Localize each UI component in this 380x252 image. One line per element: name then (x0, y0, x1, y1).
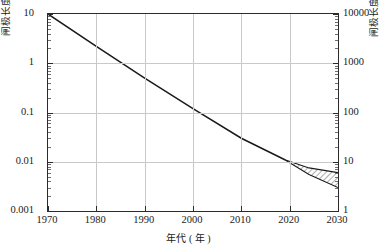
gridline-vertical (290, 14, 291, 211)
y-tick-minor-right (335, 188, 338, 189)
y-tick-minor-left (48, 68, 51, 69)
y-tick-minor-left (48, 22, 51, 23)
y-tick-minor-right (335, 78, 338, 79)
y-tick-minor-right (335, 29, 338, 30)
y-tick-right (333, 211, 338, 212)
y-tick-minor-right (335, 22, 338, 23)
x-tick (96, 206, 97, 211)
y-tick-minor-right (335, 169, 338, 170)
y-tick-minor-left (48, 66, 51, 67)
y-tick-minor-right (335, 138, 338, 139)
x-tick (193, 206, 194, 211)
y-axis-tick-label-right: 1000 (343, 57, 364, 68)
y-tick-minor-left (48, 78, 51, 79)
y-tick-minor-right (335, 83, 338, 84)
y-axis-tick-label-left: 1 (29, 57, 34, 68)
y-tick-minor-right (335, 173, 338, 174)
y-axis-tick-label-left: 0.1 (21, 107, 34, 118)
y-tick-minor-right (335, 74, 338, 75)
y-tick-minor-right (335, 115, 338, 116)
y-tick-minor-right (335, 98, 338, 99)
y-tick-minor-left (48, 29, 51, 30)
x-tick (241, 206, 242, 211)
y-tick-right (333, 162, 338, 163)
y-tick-minor-left (48, 115, 51, 116)
x-tick (145, 206, 146, 211)
gridline-vertical (96, 14, 97, 211)
y-axis-tick-label-right: 100 (343, 107, 359, 118)
y-tick-left (48, 162, 53, 163)
y-tick-minor-left (48, 188, 51, 189)
x-axis-tick-label: 2020 (266, 214, 312, 225)
y-tick-left (48, 63, 53, 64)
y-tick-minor-left (48, 169, 51, 170)
x-axis-tick-label: 1980 (72, 214, 118, 225)
y-tick-right (333, 63, 338, 64)
x-axis-tick-label: 2030 (314, 214, 360, 225)
y-tick-minor-left (48, 89, 51, 90)
y-tick-minor-right (335, 123, 338, 124)
y-tick-right (333, 113, 338, 114)
x-axis-title: 年代 ( 年 ) (0, 230, 377, 245)
gridline-vertical (145, 14, 146, 211)
y-tick-minor-left (48, 16, 51, 17)
y-tick-minor-left (48, 138, 51, 139)
y-tick-minor-left (48, 132, 51, 133)
y-tick-minor-left (48, 177, 51, 178)
y-tick-minor-right (335, 19, 338, 20)
x-axis-tick-label: 1990 (121, 214, 167, 225)
y-tick-right (333, 14, 338, 15)
y-tick-minor-left (48, 123, 51, 124)
gridline-vertical (241, 14, 242, 211)
y-tick-left (48, 211, 53, 212)
x-tick (338, 206, 339, 211)
y-tick-minor-right (335, 117, 338, 118)
data-line-0 (48, 14, 285, 160)
y-tick-minor-left (48, 196, 51, 197)
y-tick-minor-left (48, 127, 51, 128)
y-tick-left (48, 113, 53, 114)
y-tick-minor-right (335, 167, 338, 168)
y-tick-minor-left (48, 40, 51, 41)
y-tick-minor-right (335, 132, 338, 133)
y-tick-minor-right (335, 48, 338, 49)
y-tick-minor-left (48, 98, 51, 99)
y-tick-minor-left (48, 167, 51, 168)
y-tick-minor-right (335, 66, 338, 67)
y-axis-tick-label-right: 10 (343, 156, 354, 167)
forecast-shaded-region (285, 160, 338, 188)
y-tick-minor-left (48, 173, 51, 174)
x-axis-tick-label: 2000 (169, 214, 215, 225)
y-tick-minor-right (335, 34, 338, 35)
y-tick-minor-left (48, 120, 51, 121)
y-tick-minor-right (335, 127, 338, 128)
y-tick-minor-right (335, 164, 338, 165)
y-tick-minor-right (335, 68, 338, 69)
x-tick (290, 206, 291, 211)
y-axis-tick-label-right: 10000 (343, 8, 369, 19)
x-tick (48, 206, 49, 211)
y-tick-minor-right (335, 71, 338, 72)
y-tick-minor-right (335, 16, 338, 17)
y-tick-left (48, 14, 53, 15)
y-tick-minor-left (48, 147, 51, 148)
x-axis-tick-label: 2010 (217, 214, 263, 225)
y-tick-minor-left (48, 71, 51, 72)
y-tick-minor-left (48, 181, 51, 182)
y-tick-minor-right (335, 89, 338, 90)
y-tick-minor-left (48, 117, 51, 118)
y-tick-minor-left (48, 74, 51, 75)
y-tick-minor-left (48, 164, 51, 165)
y-tick-minor-left (48, 48, 51, 49)
y-tick-minor-right (335, 25, 338, 26)
y-axis-tick-label-left: 10 (24, 8, 35, 19)
y-axis-title-left: 闸极长度 (μm) (0, 0, 12, 60)
y-axis-tick-label-left: 0.01 (16, 156, 34, 167)
y-tick-minor-right (335, 120, 338, 121)
y-tick-minor-right (335, 177, 338, 178)
y-tick-minor-left (48, 19, 51, 20)
gridline-vertical (193, 14, 194, 211)
y-tick-minor-right (335, 40, 338, 41)
plot-area (47, 13, 339, 212)
